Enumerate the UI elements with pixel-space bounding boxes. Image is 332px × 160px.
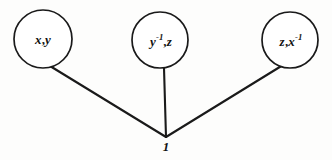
node-middle-suffix: z — [167, 34, 172, 49]
edge-left-to-vertex — [50, 66, 166, 137]
diagram-canvas: x,y y-1,z z,x-1 1 — [0, 0, 332, 160]
node-label-right: z,x-1 — [280, 32, 303, 49]
edge-right-to-vertex — [166, 65, 283, 137]
node-label-left: x,y — [35, 32, 51, 48]
diagram-graphics — [0, 0, 332, 160]
edge-middle-to-vertex — [164, 68, 166, 137]
node-left-prefix: x — [35, 32, 42, 47]
vertex-label-one: 1 — [163, 139, 170, 155]
edge-group — [50, 65, 283, 137]
node-left-suffix: y — [45, 32, 51, 47]
node-label-middle: y-1,z — [150, 32, 172, 49]
node-right-exponent: -1 — [295, 32, 302, 42]
